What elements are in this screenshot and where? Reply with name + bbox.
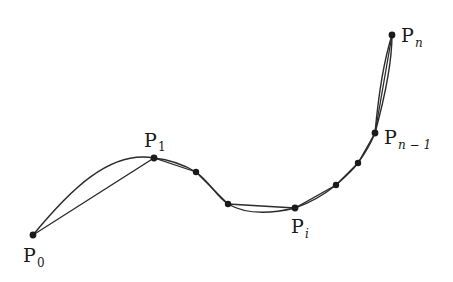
label-p1: P 1 [144, 129, 166, 154]
label-pn: P n [401, 24, 423, 50]
chord-polyline [33, 35, 392, 235]
point-pn [389, 32, 396, 39]
point-intermediate-1 [193, 169, 199, 175]
smooth-curve [33, 35, 392, 235]
point-intermediate-2 [225, 201, 231, 207]
point-pn-minus-1 [372, 130, 379, 137]
label-pi-sub: i [305, 227, 309, 241]
label-p0-sub: 0 [37, 256, 45, 270]
label-pn-main: P [401, 24, 414, 46]
curve-approximation-diagram: P 0 P 1 P i P n − 1 P n [0, 0, 453, 282]
points [30, 32, 396, 239]
label-pn-minus-1: P n − 1 [384, 126, 431, 152]
label-p1-main: P [144, 129, 157, 151]
label-pi-main: P [291, 215, 304, 237]
point-intermediate-3 [333, 182, 339, 188]
label-p0: P 0 [23, 244, 45, 270]
label-p1-sub: 1 [158, 140, 166, 154]
label-pn1-main: P [384, 126, 397, 148]
point-intermediate-4 [355, 160, 361, 166]
point-pi [292, 205, 299, 212]
label-pi: P i [291, 215, 309, 241]
label-pn-sub: n [415, 36, 423, 50]
point-p0 [30, 232, 37, 239]
label-p0-main: P [23, 244, 36, 266]
label-pn1-sub: n − 1 [398, 138, 431, 152]
point-p1 [151, 155, 158, 162]
